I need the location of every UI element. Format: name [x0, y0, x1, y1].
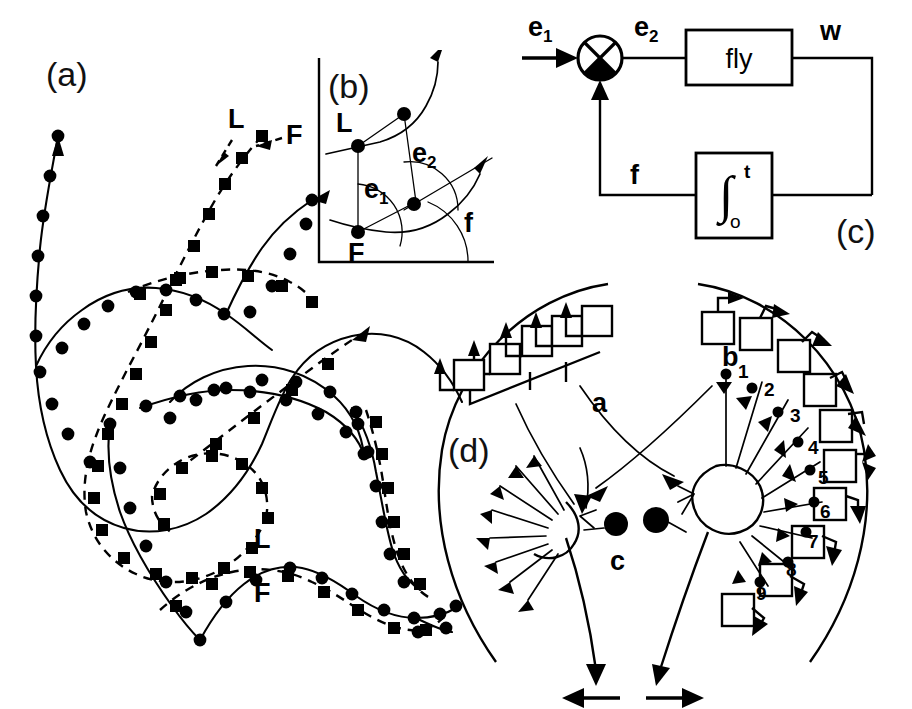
left-receptor-array — [434, 302, 612, 404]
pathway-c-elements — [584, 507, 686, 536]
pathway-c-label: c — [610, 546, 625, 576]
follower-point-label: F — [348, 238, 365, 268]
heading-angle-label: f — [464, 208, 474, 238]
fly-block: fly — [686, 30, 792, 85]
receptor-unit-right-6 — [824, 444, 876, 482]
feedback-signal-label: f — [630, 160, 640, 190]
panel-c-block-diagram: (c) e1 e2 fly w — [500, 0, 912, 280]
input-signal-arrow — [522, 48, 578, 68]
output-signal-label: w — [819, 16, 842, 46]
receptor-number-1: 1 — [738, 361, 749, 382]
leader-track-label-bottom: L — [254, 524, 271, 554]
panel-b-tag: (b) — [328, 67, 370, 105]
error-signal-label: e2 — [634, 12, 659, 46]
receptor-number-9: 9 — [756, 583, 767, 604]
integrator-upper-limit: t — [744, 161, 751, 182]
panel-d-tag: (d) — [448, 431, 490, 469]
feedback-signal-wire — [591, 80, 696, 195]
receptor-number-5: 5 — [818, 467, 829, 488]
receptor-number-7: 7 — [808, 531, 819, 552]
error-segments — [358, 114, 416, 232]
output-signal-wire — [792, 58, 872, 195]
motor-output-left-arrow — [562, 688, 620, 708]
motor-output-right-arrow — [646, 688, 704, 708]
leader-track-label-top: L — [228, 104, 245, 134]
receptor-number-8: 8 — [786, 559, 797, 580]
follower-track-label-bottom: F — [254, 578, 271, 608]
integrator-lower-limit: o — [730, 211, 741, 232]
input-signal-label: e1 — [528, 12, 553, 46]
receptor-unit-right-4 — [804, 372, 854, 406]
panel-d-neural-circuit: (d) — [430, 270, 912, 709]
motor-output-arrows — [562, 688, 704, 708]
leader-point-label: L — [336, 108, 353, 138]
panel-b-error-geometry: (b) — [308, 50, 498, 280]
pathway-a-label: a — [592, 388, 608, 418]
follower-track-label-top: F — [286, 120, 303, 150]
receptor-unit-right-5 — [820, 410, 866, 442]
panel-a-bottom-labels: L F — [254, 524, 271, 608]
receptor-number-2: 2 — [764, 379, 775, 400]
panel-c-tag: (c) — [836, 212, 876, 250]
receptor-number-4: 4 — [808, 437, 819, 458]
pathway-b-label: b — [722, 342, 739, 372]
fly-block-label: fly — [726, 44, 754, 74]
error-angle-1-label: e1 — [364, 174, 389, 208]
panel-a-tag: (a) — [46, 55, 88, 93]
receptor-unit-right-1 — [702, 292, 744, 344]
left-interneuron — [476, 456, 606, 686]
right-interneuron-axon — [652, 532, 708, 686]
receptor-number-6: 6 — [820, 501, 831, 522]
receptor-unit-left-5 — [434, 358, 484, 390]
figure-root: (a) — [0, 0, 912, 709]
error-angle-2-label: e2 — [412, 138, 437, 172]
receptor-number-3: 3 — [790, 405, 801, 426]
summing-junction — [578, 36, 622, 80]
receptor-unit-right-3 — [778, 332, 832, 372]
right-interneuron — [678, 465, 763, 534]
integrator-block: ∫ t o — [696, 153, 772, 238]
